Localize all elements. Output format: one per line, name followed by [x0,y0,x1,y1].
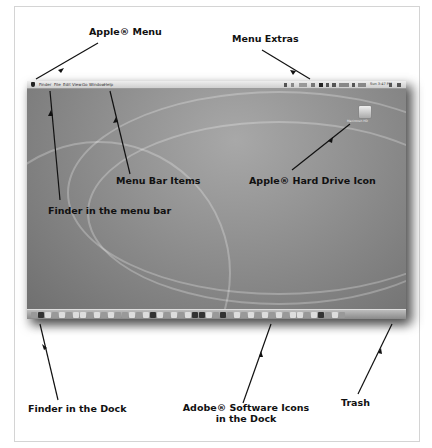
menu-extra-icon[interactable] [299,83,307,87]
dock-app-icon[interactable] [73,312,79,318]
adobe-dock-icon[interactable] [192,312,198,318]
dock-app-icon[interactable] [318,312,324,318]
dock-app-icon[interactable] [178,312,184,318]
label-hard-drive-icon: Apple® Hard Drive Icon [249,175,376,186]
menu-finder[interactable]: Finder [39,81,51,88]
label-trash: Trash [341,397,370,408]
dock-app-icon[interactable] [325,312,331,318]
display-icon[interactable] [319,83,323,87]
dock-app-icon[interactable] [129,312,135,318]
menu-extra-icon[interactable] [284,83,287,87]
dock-app-icon[interactable] [171,312,177,318]
finder-dock-icon[interactable] [31,312,37,318]
dock-app-icon[interactable] [248,312,254,318]
adobe-dock-icon[interactable] [213,312,219,318]
dock-app-icon[interactable] [332,312,338,318]
dock-app-icon[interactable] [52,312,58,318]
mac-desktop-screenshot: Finder File Edit View Go Window Help Sun… [27,81,406,319]
dock-app-icon[interactable] [80,312,86,318]
dock-app-icon[interactable] [269,312,275,318]
label-apple-menu: Apple® Menu [89,26,162,37]
dock [27,309,406,319]
menu-extra-icon[interactable] [291,83,294,87]
menu-go[interactable]: Go [82,81,88,88]
dock-app-icon[interactable] [115,312,121,318]
menu-file[interactable]: File [54,81,61,88]
menu-bar: Finder File Edit View Go Window Help Sun… [27,81,406,89]
dock-app-icon[interactable] [185,312,191,318]
menu-edit[interactable]: Edit [63,81,71,88]
label-menu-bar-items: Menu Bar Items [116,175,200,186]
dock-app-icon[interactable] [94,312,100,318]
wifi-icon[interactable] [332,83,336,87]
dock-app-icon[interactable] [255,312,261,318]
dock-app-icon[interactable] [290,312,296,318]
adobe-dock-icon[interactable] [206,312,212,318]
dock-app-icon[interactable] [276,312,282,318]
dock-app-icon[interactable] [45,312,51,318]
dock-app-icon[interactable] [150,312,156,318]
dock-app-icon[interactable] [297,312,303,318]
adobe-dock-icon[interactable] [220,312,226,318]
dock-app-icon[interactable] [66,312,72,318]
trash-dock-icon[interactable] [339,312,345,318]
adobe-dock-icon[interactable] [227,312,233,318]
label-adobe-icons-line2: in the Dock [176,413,316,424]
dock-app-icon[interactable] [87,312,93,318]
dock-app-icon[interactable] [304,312,310,318]
dock-app-icon[interactable] [101,312,107,318]
battery-icon[interactable] [339,83,349,87]
dock-app-icon[interactable] [262,312,268,318]
bluetooth-icon[interactable] [352,83,355,87]
menu-window[interactable]: Window [89,81,105,88]
hard-drive-label: Macintosh HD [347,119,368,123]
dock-app-icon[interactable] [59,312,65,318]
adobe-dock-icon[interactable] [199,312,205,318]
dock-app-icon[interactable] [311,312,317,318]
menu-extra-icon[interactable] [311,83,315,87]
user-icon[interactable] [389,83,392,87]
dock-app-icon[interactable] [38,312,44,318]
dock-app-icon[interactable] [241,312,247,318]
hard-drive-icon[interactable] [358,105,372,119]
dock-app-icon[interactable] [136,312,142,318]
label-menu-extras: Menu Extras [232,33,299,44]
dock-app-icon[interactable] [108,312,114,318]
dock-app-icon[interactable] [234,312,240,318]
dock-app-icon[interactable] [283,312,289,318]
label-adobe-icons-line1: Adobe® Software Icons [176,402,316,413]
label-adobe-icons: Adobe® Software Icons in the Dock [176,402,316,424]
dock-app-icon[interactable] [122,312,128,318]
dock-app-icon[interactable] [157,312,163,318]
spotlight-icon[interactable] [397,83,401,87]
dock-app-icon[interactable] [143,312,149,318]
label-finder-menu-bar: Finder in the menu bar [48,205,171,216]
menu-view[interactable]: View [72,81,82,88]
menu-help[interactable]: Help [104,81,113,88]
dock-app-icon[interactable] [164,312,170,318]
input-menu-icon[interactable] [358,83,366,87]
label-finder-dock: Finder in the Dock [28,403,127,414]
apple-menu-icon[interactable] [31,82,35,87]
volume-icon[interactable] [326,83,329,87]
